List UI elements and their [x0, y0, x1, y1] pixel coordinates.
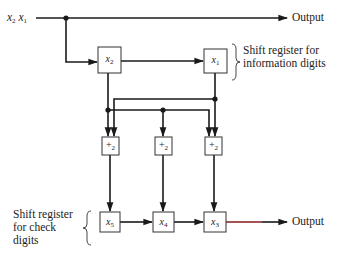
info-annotation-line2: information digits: [243, 57, 326, 70]
junction-dot-x1-bus: [212, 96, 217, 101]
input-to-x2-line: [66, 18, 97, 62]
cell-x5-sub: 5: [110, 221, 114, 229]
check-annotation-line2: for check: [13, 221, 73, 234]
check-register-annotation: Shift register for check digits: [13, 208, 73, 247]
bottom-output-label: Output: [292, 215, 324, 228]
adder-1-label: +2: [102, 139, 119, 152]
x1-bus-to-adder1: [114, 99, 215, 136]
cell-x3-sub: 3: [215, 221, 219, 229]
check-annotation-line1: Shift register: [13, 208, 73, 221]
info-register-annotation: Shift register for information digits: [243, 44, 326, 70]
input-sub-2: 1: [24, 17, 28, 25]
brace-check-register: [83, 211, 91, 245]
cell-x5-label: x5: [100, 216, 120, 229]
adder-3-sub: 2: [215, 144, 219, 152]
junction-dot-input: [63, 15, 68, 20]
cell-x1-label: x1: [204, 54, 227, 67]
top-output-label: Output: [292, 11, 324, 24]
cell-x3-label: x3: [204, 216, 226, 229]
cell-x2-sub: 2: [110, 58, 114, 66]
adder-1-sub: 2: [112, 144, 116, 152]
x2-bus-to-adder3: [108, 110, 209, 136]
input-label: x2 x1: [7, 11, 27, 28]
cell-x2-label: x2: [98, 53, 121, 66]
info-annotation-line1: Shift register for: [243, 44, 326, 57]
check-annotation-line3: digits: [13, 234, 73, 247]
adder-2-label: +2: [155, 139, 172, 152]
cell-x1-sub: 1: [216, 59, 220, 67]
input-sub-1: 2: [12, 17, 16, 25]
cell-x4-sub: 4: [164, 221, 168, 229]
cell-x4-label: x4: [153, 216, 174, 229]
brace-info-register: [232, 44, 240, 80]
adder-3-label: +2: [205, 139, 222, 152]
junction-dot-x2-bus: [105, 107, 110, 112]
junction-dot-middle: [160, 107, 165, 112]
adder-2-sub: 2: [165, 144, 169, 152]
